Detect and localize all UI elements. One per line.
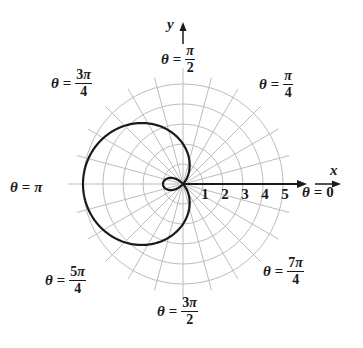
equals-sign: = bbox=[271, 76, 280, 93]
angle-label-3pi-over-4: θ=3π4 bbox=[51, 68, 92, 99]
denominator: 4 bbox=[292, 272, 299, 287]
denominator: 4 bbox=[80, 84, 87, 99]
fraction: 5π4 bbox=[69, 265, 86, 296]
theta-symbol: θ bbox=[161, 51, 169, 68]
equals-sign: = bbox=[173, 51, 182, 68]
denominator: 4 bbox=[285, 85, 292, 100]
grid-ray bbox=[183, 78, 211, 184]
numerator: 3π bbox=[75, 68, 92, 84]
fraction: 7π4 bbox=[287, 256, 304, 287]
grid-ray bbox=[183, 106, 261, 184]
fraction: 3π4 bbox=[75, 68, 92, 99]
angle-label-pi-over-2: θ=π2 bbox=[161, 44, 195, 75]
grid-ray bbox=[88, 184, 183, 239]
fraction: π4 bbox=[283, 69, 293, 100]
denominator: 2 bbox=[187, 60, 194, 75]
grid-ray bbox=[128, 184, 183, 279]
grid-ray bbox=[105, 106, 183, 184]
numerator: π bbox=[185, 44, 195, 60]
equals-sign: = bbox=[63, 75, 72, 92]
theta-symbol: θ bbox=[263, 263, 271, 280]
equals-sign: = bbox=[314, 184, 323, 201]
angle-label-zero: θ=0 bbox=[302, 184, 334, 201]
radial-tick-label: 1 bbox=[201, 186, 209, 203]
equals-sign: = bbox=[169, 303, 178, 320]
equals-sign: = bbox=[275, 263, 284, 280]
theta-symbol: θ bbox=[157, 303, 165, 320]
angle-label-3pi-over-2: θ=3π2 bbox=[157, 296, 198, 327]
grid-ray bbox=[183, 184, 289, 212]
denominator: 2 bbox=[186, 312, 193, 327]
grid-ray bbox=[128, 89, 183, 184]
theta-symbol: θ bbox=[45, 272, 53, 289]
y-axis-arrowhead bbox=[180, 22, 187, 31]
grid-ray bbox=[183, 156, 289, 184]
angle-label-5pi-over-4: θ=5π4 bbox=[45, 265, 86, 296]
numerator: 5π bbox=[69, 265, 86, 281]
theta-symbol: θ bbox=[51, 75, 59, 92]
radial-tick-label: 5 bbox=[281, 186, 289, 203]
x-axis-label: x bbox=[330, 162, 338, 179]
grid-ray bbox=[183, 89, 238, 184]
grid-ray bbox=[183, 184, 238, 279]
grid-ray bbox=[105, 184, 183, 262]
numerator: 7π bbox=[287, 256, 304, 272]
grid-ray bbox=[88, 129, 183, 184]
fraction: 3π2 bbox=[181, 296, 198, 327]
theta-symbol: θ bbox=[302, 184, 310, 201]
radial-tick-label: 3 bbox=[241, 186, 249, 203]
fraction: π2 bbox=[185, 44, 195, 75]
angle-value: 0 bbox=[326, 184, 334, 201]
denominator: 4 bbox=[74, 281, 81, 296]
angle-label-7pi-over-4: θ=7π4 bbox=[263, 256, 304, 287]
theta-symbol: θ bbox=[259, 76, 267, 93]
equals-sign: = bbox=[57, 272, 66, 289]
radial-tick-label: 2 bbox=[221, 186, 229, 203]
equals-sign: = bbox=[22, 179, 31, 196]
numerator: 3π bbox=[181, 296, 198, 312]
grid-ray bbox=[183, 129, 278, 184]
radial-tick-label: 4 bbox=[261, 186, 269, 203]
theta-symbol: θ bbox=[10, 179, 18, 196]
angle-value: π bbox=[34, 179, 42, 196]
angle-label-pi-over-4: θ=π4 bbox=[259, 69, 293, 100]
numerator: π bbox=[283, 69, 293, 85]
angle-label-pi: θ=π bbox=[10, 179, 43, 196]
y-axis-label: y bbox=[167, 16, 174, 33]
